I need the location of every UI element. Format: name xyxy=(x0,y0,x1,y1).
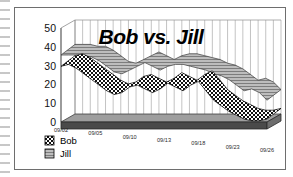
y-tick-label: 30 xyxy=(44,60,56,72)
y-tick-label: 20 xyxy=(44,78,56,90)
plot-area: 01020304050 09/0209/0509/1009/1309/1809/… xyxy=(15,8,287,171)
legend-swatch-jill xyxy=(45,149,54,158)
x-tick-label: 09/10 xyxy=(123,134,137,140)
legend-label-jill: Jill xyxy=(60,148,71,159)
chart-frame: 01020304050 09/0209/0509/1009/1309/1809/… xyxy=(14,7,286,170)
y-tick-label: 50 xyxy=(44,22,56,34)
chart-title: Bob vs. Jill xyxy=(99,25,206,48)
y-tick-label: 10 xyxy=(44,97,56,109)
scan-edge-artifact xyxy=(0,0,10,177)
x-tick-label: 09/02 xyxy=(54,127,68,133)
x-tick-label: 09/26 xyxy=(260,147,274,153)
screenshot-root: 01020304050 09/0209/0509/1009/1309/1809/… xyxy=(0,0,293,177)
x-tick-label: 09/13 xyxy=(157,137,171,143)
x-tick-label: 09/23 xyxy=(226,144,240,150)
legend-label-bob: Bob xyxy=(60,135,77,146)
x-tick-label: 09/18 xyxy=(191,140,205,146)
axis-y-line xyxy=(61,20,75,122)
x-tick-label: 09/05 xyxy=(88,130,102,136)
x-axis-ticks: 09/0209/0509/1009/1309/1809/2309/26 xyxy=(54,127,274,153)
y-axis-ticks: 01020304050 xyxy=(44,22,56,128)
y-tick-label: 40 xyxy=(44,41,56,53)
legend: Bob Jill xyxy=(45,135,77,159)
legend-swatch-bob xyxy=(45,136,54,145)
chart-canvas: 01020304050 09/0209/0509/1009/1309/1809/… xyxy=(15,8,287,171)
